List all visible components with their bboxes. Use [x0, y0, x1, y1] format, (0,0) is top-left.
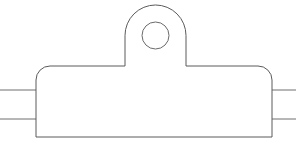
technical-drawing-canvas: [0, 0, 296, 153]
through-hole-circle: [142, 22, 169, 49]
line-drawing-svg: [0, 0, 296, 153]
